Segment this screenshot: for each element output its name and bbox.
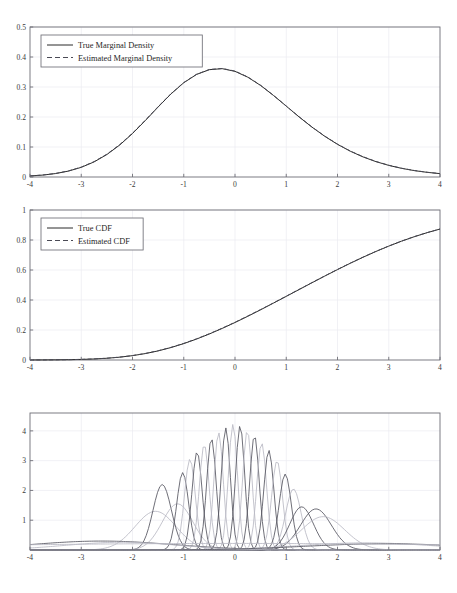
y-tick-label: 1	[22, 516, 26, 525]
y-tick-label: 0.2	[17, 326, 27, 335]
chart-svg-mixture-components: -4-3-2-1012341234	[0, 388, 457, 568]
y-tick-label: 3	[22, 456, 26, 465]
x-tick-label: -2	[129, 363, 136, 372]
y-tick-label: 1	[22, 206, 26, 215]
x-tick-label: 2	[336, 363, 340, 372]
chart-svg-cdf: -4-3-2-10123400.20.40.60.81True CDFEstim…	[0, 203, 457, 378]
x-tick-label: -2	[129, 553, 136, 562]
chart-svg-marginal-density: -4-3-2-10123400.10.20.30.40.5True Margin…	[0, 20, 457, 195]
y-tick-label: 0.2	[17, 113, 27, 122]
y-tick-label: 2	[22, 486, 26, 495]
legend-label-1: Estimated Marginal Density	[78, 54, 173, 63]
y-tick-label: 0.4	[17, 53, 27, 62]
x-tick-label: -1	[181, 363, 188, 372]
x-tick-label: -4	[27, 553, 34, 562]
x-tick-label: 4	[438, 180, 442, 189]
x-tick-label: -2	[129, 180, 136, 189]
figure-page: -4-3-2-10123400.10.20.30.40.5True Margin…	[0, 0, 457, 593]
chart-legend: True Marginal DensityEstimated Marginal …	[41, 35, 202, 67]
x-tick-label: -3	[78, 363, 85, 372]
x-tick-label: 4	[438, 553, 442, 562]
x-tick-label: -4	[27, 180, 34, 189]
x-tick-label: 1	[284, 180, 288, 189]
x-tick-label: -1	[181, 553, 188, 562]
x-tick-label: 4	[438, 363, 442, 372]
legend-label-0: True Marginal Density	[78, 41, 155, 50]
x-tick-label: 3	[387, 553, 391, 562]
x-tick-label: 0	[233, 553, 237, 562]
chart-panel-components: -4-3-2-1012341234	[0, 388, 457, 568]
legend-label-0: True CDF	[78, 224, 112, 233]
y-tick-label: 0.6	[17, 266, 27, 275]
x-tick-label: 0	[233, 180, 237, 189]
x-tick-label: 0	[233, 363, 237, 372]
x-tick-label: 1	[284, 363, 288, 372]
x-tick-label: -4	[27, 363, 34, 372]
y-tick-label: 0.5	[17, 23, 27, 32]
x-tick-label: -3	[78, 553, 85, 562]
x-tick-label: -1	[181, 180, 188, 189]
y-tick-label: 0	[22, 173, 26, 182]
x-tick-label: 3	[387, 363, 391, 372]
chart-legend: True CDFEstimated CDF	[41, 218, 143, 250]
y-tick-label: 4	[22, 427, 26, 436]
x-tick-label: 3	[387, 180, 391, 189]
chart-panel-cdf: -4-3-2-10123400.20.40.60.81True CDFEstim…	[0, 203, 457, 378]
x-tick-label: 2	[336, 180, 340, 189]
x-tick-label: 2	[336, 553, 340, 562]
legend-label-1: Estimated CDF	[78, 237, 130, 246]
x-tick-label: -3	[78, 180, 85, 189]
y-tick-label: 0.3	[17, 83, 27, 92]
y-tick-label: 0.8	[17, 236, 27, 245]
y-tick-label: 0.1	[17, 143, 27, 152]
y-tick-label: 0.4	[17, 296, 27, 305]
y-tick-label: 0	[22, 356, 26, 365]
chart-panel-marginal-density: -4-3-2-10123400.10.20.30.40.5True Margin…	[0, 20, 457, 195]
page-header-text	[215, 2, 455, 11]
x-tick-label: 1	[284, 553, 288, 562]
